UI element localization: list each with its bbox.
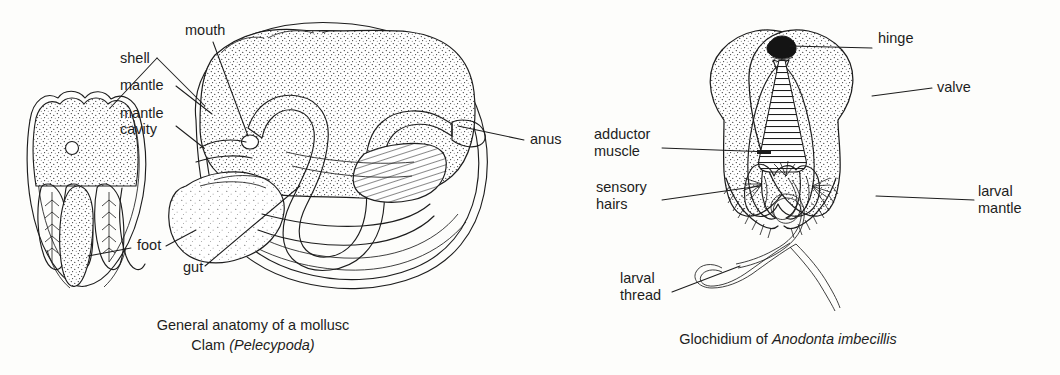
gonad-circle xyxy=(66,142,79,155)
label-mouth: mouth xyxy=(185,22,225,38)
clam-caption-genus-plain: Clam xyxy=(191,337,229,353)
label-larval-thread-line2: thread xyxy=(620,287,661,303)
label-hinge: hinge xyxy=(878,30,913,46)
label-shell: shell xyxy=(120,50,150,66)
label-larval-mantle-line2: mantle xyxy=(978,200,1022,216)
label-mantle-cavity-line1: mantle xyxy=(120,105,164,121)
clam-caption-taxon: (Pelecypoda) xyxy=(229,337,314,353)
label-sensory-line2: hairs xyxy=(596,196,627,212)
label-sensory-line1: sensory xyxy=(596,179,648,195)
label-mantle-cavity-line2: cavity xyxy=(120,121,158,137)
label-adductor-line1: adductor xyxy=(594,126,651,142)
label-gut: gut xyxy=(183,259,203,275)
label-mantle: mantle xyxy=(120,77,164,93)
glochidium-caption-plain: Glochidium of xyxy=(679,331,772,347)
glochidium-caption-species: Anodonta imbecillis xyxy=(771,331,897,347)
label-valve: valve xyxy=(937,79,971,95)
glochidium-caption: Glochidium of Anodonta imbecillis xyxy=(679,331,897,347)
label-adductor-line2: muscle xyxy=(594,143,640,159)
clam-caption-line1: General anatomy of a mollusc xyxy=(157,317,350,333)
label-larval-thread-line1: larval xyxy=(620,270,655,286)
label-foot: foot xyxy=(137,237,161,253)
label-anus: anus xyxy=(530,131,561,147)
clam-caption-line2: Clam (Pelecypoda) xyxy=(191,337,314,353)
label-larval-mantle-line1: larval xyxy=(978,183,1013,199)
anatomy-figure: mouth shell mantle mantle cavity anus fo… xyxy=(0,0,1060,375)
